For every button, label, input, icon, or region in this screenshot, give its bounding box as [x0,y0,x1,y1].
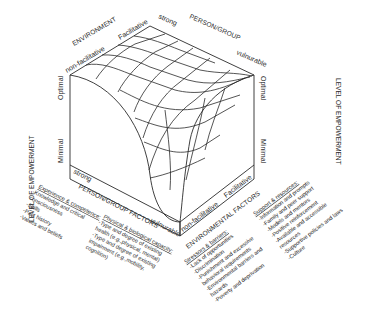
right-vertical-axis: LEVEL OF EMPOWERMENT Optimal Minimal [259,76,342,165]
person-group-title: PERSON/GROUP [189,13,243,42]
person-vulnerable-label: vulnurable [236,49,268,69]
right-empowerment-title: LEVEL OF EMPOWERMENT [335,78,342,165]
list-support-resources: Support & resources: -Information and pr… [252,168,348,262]
empowerment-diagram: ENVIRONMENT non-facilitative Facilitativ… [0,0,366,330]
environment-low-label: non-facilitative [64,45,106,74]
left-optimal-label: Optimal [57,75,65,100]
left-minimal-label: Minimal [57,138,64,163]
person-strong-label: strong [157,13,178,28]
right-optimal-label: Optimal [259,76,267,101]
environment-title: ENVIRONMENT [71,15,117,47]
top-axis-person-group: strong PERSON/GROUP vulnurable [157,13,268,69]
list-stressors-barriers: Stressors & barriers: -Lack of opportuni… [183,218,272,304]
right-minimal-label: Minimal [260,139,267,164]
box-outline [70,26,254,236]
